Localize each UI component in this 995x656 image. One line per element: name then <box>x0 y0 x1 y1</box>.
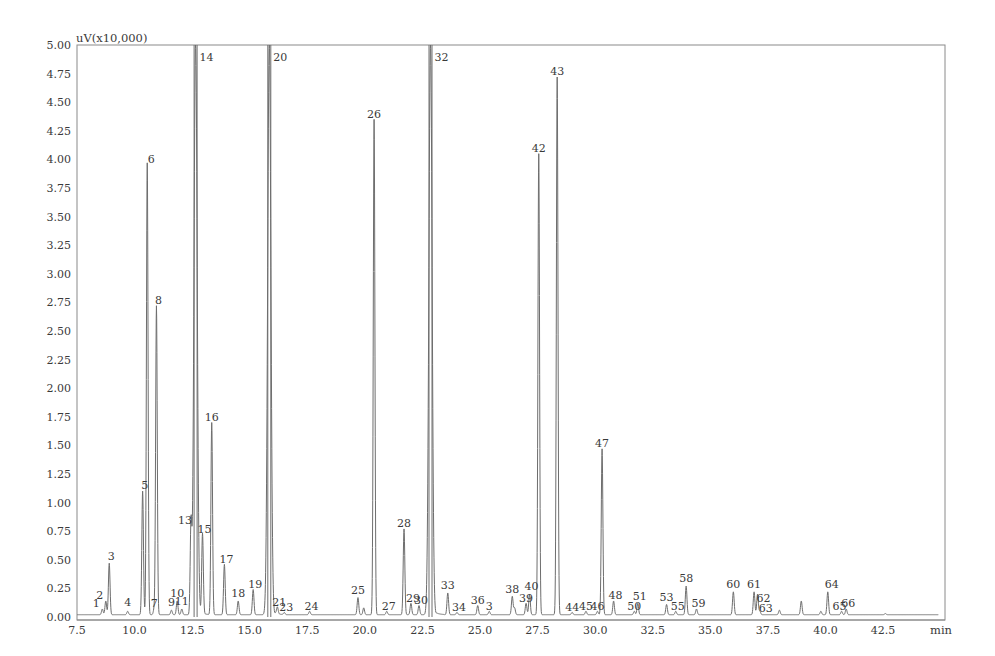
peak-label: 3 <box>486 600 493 613</box>
peak-label: 15 <box>198 523 212 536</box>
y-tick-label: 2.75 <box>47 296 72 309</box>
peak-label: 18 <box>231 587 245 600</box>
peak-label: 58 <box>679 572 693 585</box>
peak-label: 40 <box>525 580 539 593</box>
y-tick-label: 1.00 <box>47 497 72 510</box>
y-tick-label: 4.00 <box>47 153 72 166</box>
peak-label: 51 <box>633 590 647 603</box>
peak-label: 47 <box>595 437 609 450</box>
x-tick-label: 22.5 <box>410 624 435 637</box>
x-tick-label: 17.5 <box>295 624 320 637</box>
peak-label: 64 <box>825 578 839 591</box>
peak-labels: 1234567891011131415161718192021232425262… <box>93 51 855 615</box>
peak-label: 6 <box>148 153 155 166</box>
peak-label: 13 <box>178 514 192 527</box>
x-tick-label: 12.5 <box>180 624 205 637</box>
x-axis: 7.510.012.515.017.520.022.525.027.530.03… <box>68 624 895 637</box>
x-tick-label: 20.0 <box>353 624 378 637</box>
x-tick-label: 27.5 <box>525 624 550 637</box>
peak-label: 24 <box>305 600 319 613</box>
peak-label: 4 <box>124 596 131 609</box>
peak-label: 25 <box>351 584 365 597</box>
peak-label: 36 <box>471 594 485 607</box>
x-tick-label: 37.5 <box>756 624 781 637</box>
peak-label: 34 <box>452 601 466 614</box>
x-axis-unit-label: min <box>930 623 953 637</box>
peak-label: 23 <box>279 601 293 614</box>
peak-label: 33 <box>441 579 455 592</box>
peak-label: 14 <box>200 51 214 64</box>
y-tick-label: 4.50 <box>47 96 72 109</box>
x-tick-label: 10.0 <box>122 624 147 637</box>
y-tick-label: 0.00 <box>47 611 72 624</box>
y-tick-label: 3.50 <box>47 211 72 224</box>
peak-label: 26 <box>367 108 381 121</box>
peak-label: 28 <box>397 517 411 530</box>
peak-label: 43 <box>550 65 564 78</box>
peak-label: 55 <box>671 600 685 613</box>
y-tick-label: 3.25 <box>47 239 72 252</box>
x-tick-label: 32.5 <box>641 624 666 637</box>
y-tick-label: 3.00 <box>47 268 72 281</box>
y-tick-label: 4.25 <box>47 125 72 138</box>
y-tick-label: 2.50 <box>47 325 72 338</box>
peak-label: 60 <box>726 578 740 591</box>
peak-label: 48 <box>609 589 623 602</box>
peak-label: 38 <box>505 583 519 596</box>
peak-label: 66 <box>841 597 855 610</box>
peak-label: 27 <box>382 600 396 613</box>
y-tick-label: 1.50 <box>47 439 72 452</box>
peak-label: 61 <box>747 578 761 591</box>
peak-label: 59 <box>692 597 706 610</box>
y-tick-label: 5.00 <box>47 39 72 52</box>
peak-label: 30 <box>414 594 428 607</box>
x-tick-label: 40.0 <box>813 624 838 637</box>
y-tick-label: 2.00 <box>47 382 72 395</box>
peak-label: 17 <box>219 553 233 566</box>
y-tick-label: 0.50 <box>47 554 72 567</box>
peak-label: 20 <box>273 51 287 64</box>
peak-label: 39 <box>519 592 533 605</box>
x-tick-label: 25.0 <box>468 624 493 637</box>
peak-label: 16 <box>205 411 219 424</box>
peak-label: 19 <box>248 578 262 591</box>
peak-label: 42 <box>532 142 546 155</box>
y-tick-label: 0.25 <box>47 582 72 595</box>
peak-label: 2 <box>96 589 103 602</box>
chromatogram-plot: 0.000.250.500.751.001.251.501.752.002.25… <box>0 0 995 656</box>
peak-label: 44 <box>565 601 579 614</box>
y-tick-label: 3.75 <box>47 182 72 195</box>
y-axis-unit-label: uV(x10,000) <box>76 31 147 45</box>
peak-label: 32 <box>435 51 449 64</box>
peak-label: 11 <box>175 595 189 608</box>
x-tick-label: 35.0 <box>698 624 723 637</box>
x-tick-label: 42.5 <box>871 624 896 637</box>
y-tick-label: 4.75 <box>47 68 72 81</box>
chromatogram-chart: 0.000.250.500.751.001.251.501.752.002.25… <box>0 0 995 656</box>
y-tick-label: 1.75 <box>47 411 72 424</box>
peak-label: 3 <box>108 550 115 563</box>
peak-label: 63 <box>759 602 773 615</box>
peak-label: 7 <box>151 597 158 610</box>
y-tick-label: 0.75 <box>47 525 72 538</box>
x-tick-label: 15.0 <box>237 624 262 637</box>
y-tick-label: 1.25 <box>47 468 72 481</box>
x-tick-label: 7.5 <box>68 624 86 637</box>
peak-label: 5 <box>141 479 148 492</box>
peak-label: 46 <box>590 600 604 613</box>
peak-label: 8 <box>155 294 162 307</box>
y-tick-label: 2.25 <box>47 354 72 367</box>
x-tick-label: 30.0 <box>583 624 608 637</box>
y-axis: 0.000.250.500.751.001.251.501.752.002.25… <box>47 39 72 624</box>
